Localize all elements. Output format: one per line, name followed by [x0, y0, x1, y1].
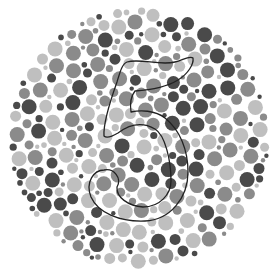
dot	[184, 31, 188, 35]
dot	[210, 101, 217, 108]
dot	[49, 58, 64, 73]
dot	[97, 90, 103, 96]
dot	[223, 41, 227, 45]
dot	[189, 162, 204, 177]
dot	[264, 154, 268, 158]
dot	[155, 187, 168, 200]
dot	[187, 92, 196, 101]
dot	[33, 83, 48, 98]
dot	[180, 126, 189, 135]
dot	[186, 233, 201, 248]
dot	[165, 116, 180, 131]
dot	[34, 211, 40, 217]
dot	[61, 239, 65, 243]
dot	[174, 61, 185, 72]
dot	[86, 43, 99, 56]
dot	[179, 228, 185, 234]
dot	[17, 180, 23, 186]
dot	[222, 232, 226, 236]
dot	[154, 97, 169, 112]
dot	[128, 14, 143, 29]
dot	[67, 79, 73, 85]
dot	[131, 254, 146, 269]
dot	[161, 32, 167, 38]
dot	[118, 253, 127, 262]
dot	[231, 94, 242, 105]
dot	[125, 240, 134, 249]
dot	[115, 39, 121, 45]
dot	[172, 32, 181, 41]
dot	[251, 76, 255, 80]
dot	[256, 175, 263, 182]
dot	[49, 213, 64, 228]
dot	[81, 193, 96, 208]
dot	[159, 72, 166, 79]
dot	[13, 102, 20, 109]
dot	[194, 149, 205, 160]
dot	[99, 96, 110, 107]
dot	[96, 176, 111, 191]
dot	[81, 45, 85, 49]
dot	[73, 240, 84, 251]
dot	[93, 74, 108, 89]
dot	[41, 142, 47, 148]
dot	[179, 85, 188, 94]
dot	[202, 84, 217, 99]
dot	[87, 17, 96, 26]
dot	[112, 45, 118, 51]
dot	[37, 54, 48, 65]
dot	[151, 234, 166, 249]
dot	[255, 183, 259, 187]
dot	[120, 121, 135, 136]
dot	[220, 80, 235, 95]
dot	[138, 45, 153, 60]
dot	[207, 151, 222, 166]
dot	[115, 138, 130, 153]
dot	[172, 133, 178, 139]
dot	[237, 69, 248, 80]
dot	[181, 37, 196, 52]
dot	[139, 32, 143, 36]
dot	[58, 35, 64, 41]
dot	[153, 146, 159, 152]
dot	[74, 158, 78, 162]
dot	[244, 188, 255, 199]
dot	[130, 75, 141, 86]
dot	[154, 53, 158, 57]
dot	[163, 17, 178, 32]
dot	[110, 54, 121, 65]
dot	[243, 149, 258, 164]
dot	[98, 230, 102, 234]
dot	[158, 248, 173, 263]
dot	[10, 111, 21, 122]
dot	[151, 230, 155, 234]
dot	[110, 231, 114, 235]
dot	[199, 205, 214, 220]
dot	[148, 165, 154, 171]
dot	[10, 127, 25, 142]
dot	[54, 198, 67, 211]
dot	[157, 133, 172, 148]
dot	[119, 42, 134, 57]
dot	[234, 160, 245, 171]
dot	[169, 152, 176, 159]
dot	[204, 188, 215, 199]
dot	[67, 193, 78, 204]
dot	[205, 113, 216, 124]
dot	[132, 225, 147, 240]
dot	[47, 158, 58, 169]
dot	[44, 188, 53, 197]
dot	[248, 137, 259, 148]
dot	[106, 65, 113, 72]
dot	[220, 123, 233, 136]
dot	[157, 21, 163, 27]
dot	[22, 190, 28, 196]
dot	[58, 169, 64, 175]
dot	[192, 251, 198, 257]
dot	[47, 74, 56, 83]
dot	[95, 254, 101, 260]
dot	[53, 83, 68, 98]
dot	[72, 80, 87, 95]
dot	[239, 145, 243, 149]
dot	[234, 54, 241, 61]
